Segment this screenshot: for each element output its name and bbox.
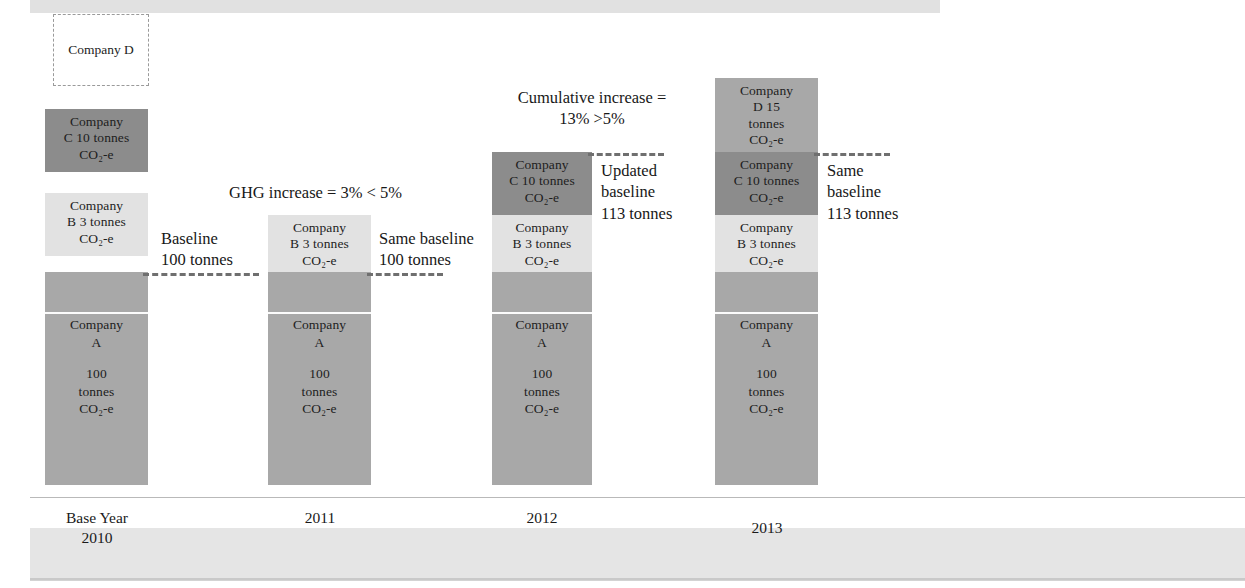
- bar-segment-company-c-2010[interactable]: Company C 10 tonnes CO₂-e: [45, 109, 148, 172]
- segment-label-spacer: [715, 351, 818, 365]
- annotation-line-3: 113 tonnes: [827, 203, 898, 224]
- bar-segment-company-b-2012[interactable]: Company B 3 tonnes CO₂-e: [492, 215, 592, 272]
- segment-label-line-4: tonnes: [715, 383, 818, 401]
- segment-label-line-1: Company: [293, 220, 346, 236]
- annotation-line-2: 100 tonnes: [161, 249, 233, 270]
- annotation-line-1: Updated: [601, 160, 672, 181]
- segment-label-line-3: 100: [45, 365, 148, 383]
- axis-label-line-1: Base Year: [36, 508, 158, 528]
- segment-label-line-4: tonnes: [45, 383, 148, 401]
- annotation-line-1: Same: [827, 160, 898, 181]
- bar-segment-company-c-2012[interactable]: Company C 10 tonnes CO₂-e: [492, 152, 592, 215]
- segment-label-spacer: [268, 351, 371, 365]
- segment-label-line-5: CO₂-e: [45, 400, 148, 418]
- segment-label-line-2: B 3 tonnes: [290, 236, 349, 252]
- axis-label-2013: 2013: [706, 518, 828, 538]
- segment-label-line-3: CO₂-e: [525, 253, 559, 269]
- baseline-dash-2012: [588, 153, 664, 156]
- annotation-baseline-2010: Baseline 100 tonnes: [161, 228, 233, 271]
- segment-label-line-1: Company: [740, 157, 793, 173]
- ghost-box-line-1: Company: [68, 42, 121, 57]
- segment-label-line-3: CO₂-e: [302, 253, 336, 269]
- annotation-ghg-increase-2011: GHG increase = 3% < 5%: [229, 182, 402, 203]
- bar-segment-company-b-2013[interactable]: Company B 3 tonnes CO₂-e: [715, 215, 818, 272]
- segment-label-line-5: CO₂-e: [715, 400, 818, 418]
- company-a-inner-rule: [268, 312, 371, 314]
- annotation-line-2: baseline: [827, 181, 898, 202]
- segment-label-line-3: CO₂-e: [79, 231, 113, 247]
- segment-label-line-2: A: [715, 334, 818, 352]
- segment-label-line-3: 100: [268, 365, 371, 383]
- segment-label-line-1: Company: [740, 83, 793, 99]
- axis-label-2011: 2011: [259, 508, 381, 528]
- bar-segment-company-a-2012[interactable]: Company A 100 tonnes CO₂-e: [492, 272, 592, 485]
- annotation-line-1: Baseline: [161, 228, 233, 249]
- annotation-line-3: 113 tonnes: [601, 203, 672, 224]
- segment-label-line-2: C 10 tonnes: [64, 130, 130, 146]
- annotation-line-2: 100 tonnes: [379, 249, 474, 270]
- company-a-label-block: Company A 100 tonnes CO₂-e: [45, 316, 148, 418]
- segment-label-line-1: Company: [515, 157, 568, 173]
- bar-segment-company-a-2011[interactable]: Company A 100 tonnes CO₂-e: [268, 272, 371, 485]
- company-a-inner-rule: [492, 312, 592, 314]
- segment-label-line-2: B 3 tonnes: [737, 236, 796, 252]
- segment-label-line-2: C 10 tonnes: [734, 173, 800, 189]
- segment-label-line-3: CO₂-e: [749, 253, 783, 269]
- segment-label-line-3: 100: [492, 365, 592, 383]
- axis-label-line-2: 2010: [36, 528, 158, 548]
- segment-label-line-2: D 15: [753, 99, 780, 115]
- segment-label-line-2: B 3 tonnes: [67, 214, 126, 230]
- segment-label-line-2: C 10 tonnes: [509, 173, 575, 189]
- bar-segment-company-b-2011[interactable]: Company B 3 tonnes CO₂-e: [268, 215, 371, 272]
- ghost-box-company-d-baseyear: Company D: [53, 14, 149, 86]
- segment-label-spacer: [492, 351, 592, 365]
- segment-label-line-1: Company: [740, 220, 793, 236]
- baseline-dash-2010: [143, 273, 259, 276]
- bar-segment-company-a-2013[interactable]: Company A 100 tonnes CO₂-e: [715, 272, 818, 485]
- segment-label-line-4: tonnes: [492, 383, 592, 401]
- segment-label-spacer: [45, 351, 148, 365]
- axis-label-base-year-2010: Base Year 2010: [36, 508, 158, 548]
- segment-label-line-4: tonnes: [268, 383, 371, 401]
- baseline-dash-2011: [367, 273, 443, 276]
- segment-label-line-1: Company: [70, 198, 123, 214]
- segment-label-line-1: Company: [268, 316, 371, 334]
- baseline-dash-2013: [814, 153, 890, 156]
- segment-label-line-5: CO₂-e: [492, 400, 592, 418]
- annotation-line-2: 13% >5%: [477, 108, 707, 129]
- segment-label-line-1: Company: [70, 114, 123, 130]
- company-a-inner-rule: [715, 312, 818, 314]
- segment-label-line-1: Company: [45, 316, 148, 334]
- segment-label-line-1: Company: [492, 316, 592, 334]
- segment-label-line-3: tonnes: [749, 116, 785, 132]
- company-a-label-block: Company A 100 tonnes CO₂-e: [715, 316, 818, 418]
- bar-segment-company-c-2013[interactable]: Company C 10 tonnes CO₂-e: [715, 152, 818, 215]
- segment-label-line-3: CO₂-e: [749, 190, 783, 206]
- bar-segment-company-b-2010[interactable]: Company B 3 tonnes CO₂-e: [45, 193, 148, 256]
- annotation-line-1: Cumulative increase =: [477, 87, 707, 108]
- company-a-label-block: Company A 100 tonnes CO₂-e: [268, 316, 371, 418]
- segment-label-line-5: CO₂-e: [268, 400, 371, 418]
- segment-label-line-3: 100: [715, 365, 818, 383]
- segment-label-line-2: B 3 tonnes: [513, 236, 572, 252]
- annotation-line-2: baseline: [601, 181, 672, 202]
- annotation-cumulative-increase-2012: Cumulative increase = 13% >5%: [477, 87, 707, 130]
- segment-label-line-3: CO₂-e: [525, 190, 559, 206]
- annotation-updated-baseline-2012: Updated baseline 113 tonnes: [601, 160, 672, 224]
- bar-segment-company-a-2010[interactable]: Company A 100 tonnes CO₂-e: [45, 272, 148, 485]
- annotation-line-1: Same baseline: [379, 228, 474, 249]
- bar-segment-company-d-2013[interactable]: Company D 15 tonnes CO₂-e: [715, 78, 818, 152]
- company-a-label-block: Company A 100 tonnes CO₂-e: [492, 316, 592, 418]
- axis-label-2012: 2012: [481, 508, 603, 528]
- segment-label-line-2: A: [45, 334, 148, 352]
- segment-label-line-1: Company: [515, 220, 568, 236]
- segment-label-line-4: CO₂-e: [749, 132, 783, 148]
- segment-label-line-1: Company: [715, 316, 818, 334]
- segment-label-line-2: A: [492, 334, 592, 352]
- segment-label-line-3: CO₂-e: [79, 147, 113, 163]
- company-a-inner-rule: [45, 312, 148, 314]
- ghost-box-line-2: D: [124, 42, 134, 57]
- annotation-same-baseline-2013: Same baseline 113 tonnes: [827, 160, 898, 224]
- annotation-same-baseline-2011: Same baseline 100 tonnes: [379, 228, 474, 271]
